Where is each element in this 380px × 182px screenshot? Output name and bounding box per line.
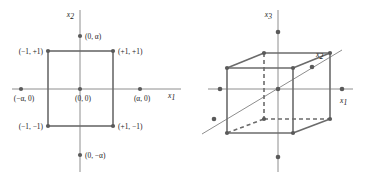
two-factor-design-panel: x2 x1 (0, α) (−1, +1) (+1, +1) (−α, 0) (… xyxy=(0,0,190,182)
design-point-axial-left xyxy=(19,87,23,91)
cube-point-back-bottom-right xyxy=(328,117,332,121)
x1-axis-label: x1 xyxy=(167,91,175,102)
design-point-center xyxy=(78,87,82,91)
three-factor-design-panel: x3 x1 x2 xyxy=(190,0,380,182)
label-axial-top: (0, α) xyxy=(85,32,102,41)
cube-point-front-bottom-left xyxy=(225,131,229,135)
cube-edge-depth-bottom-left-hidden xyxy=(227,119,264,133)
axial-point-center xyxy=(276,87,281,92)
label-corner-bottom-right: (+1, −1) xyxy=(118,122,143,131)
label-axial-right: (α, 0) xyxy=(134,94,151,103)
axial-point-x1-minus xyxy=(218,87,223,92)
label-axial-bottom: (0, −α) xyxy=(85,151,106,160)
label-corner-top-left: (−1, +1) xyxy=(19,47,44,56)
design-point-axial-top xyxy=(78,34,82,38)
axial-point-x3-minus xyxy=(276,155,281,160)
axial-point-x3-plus xyxy=(276,30,281,35)
axial-point-x1-plus xyxy=(340,87,345,92)
central-composite-design-figure: x2 x1 (0, α) (−1, +1) (+1, +1) (−α, 0) (… xyxy=(0,0,380,182)
axial-point-x2-minus xyxy=(212,117,217,122)
x2-axis-label: x2 xyxy=(66,10,74,21)
cube-point-front-top-right xyxy=(291,66,295,70)
label-corner-bottom-left: (−1, −1) xyxy=(19,122,44,131)
cube-point-back-top-right xyxy=(328,51,332,55)
cube-point-front-bottom-right xyxy=(291,131,295,135)
two-factor-design-svg: x2 x1 (0, α) (−1, +1) (+1, +1) (−α, 0) (… xyxy=(0,0,190,182)
design-point-corner-top-right xyxy=(111,49,115,53)
three-factor-design-svg: x3 x1 x2 xyxy=(190,0,380,182)
design-point-corner-bottom-left xyxy=(46,124,50,128)
cube-edge-depth-bottom-right xyxy=(293,119,330,133)
cube-point-front-top-left xyxy=(225,66,229,70)
cube-point-back-bottom-left xyxy=(262,117,266,121)
design-point-corner-top-left xyxy=(46,49,50,53)
label-center: (0, 0) xyxy=(75,94,92,103)
x1-axis-label: x1 xyxy=(339,96,347,107)
label-axial-left: (−α, 0) xyxy=(14,94,35,103)
x3-axis-label: x3 xyxy=(264,10,272,21)
design-point-axial-right xyxy=(138,87,142,91)
x2-axis-line xyxy=(202,50,342,134)
cube-point-back-top-left xyxy=(262,51,266,55)
design-point-corner-bottom-right xyxy=(111,124,115,128)
cube-edge-depth-top-left xyxy=(227,53,264,68)
label-corner-top-right: (+1, +1) xyxy=(118,47,143,56)
axial-point-x2-plus xyxy=(310,65,315,70)
design-point-axial-bottom xyxy=(78,153,82,157)
